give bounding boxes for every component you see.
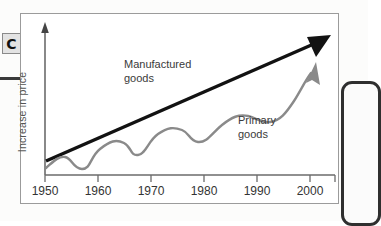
adjacent-rounded-panel	[341, 81, 381, 226]
xtick-label-1960: 1960	[78, 184, 118, 198]
y-axis-label: Increase in price	[16, 62, 28, 162]
xtick-label-1950: 1950	[25, 184, 65, 198]
xtick-label-1980: 1980	[184, 184, 224, 198]
section-label-c: C	[2, 33, 21, 54]
x-axis	[45, 175, 335, 182]
y-axis	[41, 22, 49, 175]
series-manufactured-goods	[46, 35, 331, 161]
price-trend-chart	[20, 13, 339, 204]
xtick-label-1990: 1990	[237, 184, 277, 198]
xtick-label-2000: 2000	[290, 184, 330, 198]
xtick-label-1970: 1970	[131, 184, 171, 198]
series-label-manufactured-goods: Manufactured goods	[124, 57, 191, 85]
series-label-primary-goods: Primary goods	[238, 113, 276, 141]
